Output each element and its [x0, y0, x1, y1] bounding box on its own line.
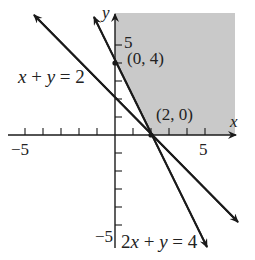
point-label-0-4: (0, 4) — [127, 50, 164, 67]
equation-label-2x-plus-y-eq-4: 2x + y = 4 — [121, 232, 197, 251]
inequality-graph: y x −5 5 5 −5 (0, 4) (2, 0) x + y = 2 2x… — [0, 0, 255, 260]
tick-label-y-neg5: −5 — [95, 228, 113, 245]
point-0-4 — [112, 60, 117, 65]
equation-label-x-plus-y-eq-2: x + y = 2 — [18, 67, 85, 86]
tick-label-x-5: 5 — [199, 141, 208, 158]
x-axis-label: x — [230, 113, 238, 130]
y-axis-label: y — [102, 4, 110, 21]
point-2-0 — [148, 132, 153, 137]
point-label-2-0: (2, 0) — [156, 106, 193, 123]
tick-label-x-neg5: −5 — [11, 141, 29, 158]
